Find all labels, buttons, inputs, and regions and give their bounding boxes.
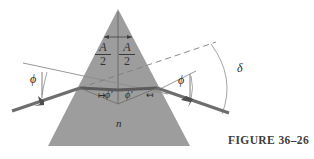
figure-prism-refraction: A 2 A 2 ϕ ϕ δ ϕ' ϕ' ↦ ↤ n FIGURE 36–26 <box>0 0 314 159</box>
exit-angle-label: ϕ <box>178 74 184 86</box>
phi-right-angle-arc <box>191 76 193 99</box>
internal-angle-label-right: ϕ' <box>125 90 132 100</box>
refractive-index-label: n <box>116 118 122 129</box>
delta-angle-arc <box>211 44 227 114</box>
phi-left-angle-arc <box>42 72 47 95</box>
internal-angle-tick-left: ↦ <box>98 91 106 100</box>
apex-half-denominator-right: 2 <box>119 55 135 67</box>
internal-angle-label-left: ϕ' <box>105 90 112 100</box>
right-face-normal-line <box>150 71 196 94</box>
apex-half-numerator-right: A <box>119 41 135 53</box>
figure-caption: FIGURE 36–26 <box>228 134 309 146</box>
apex-half-angle-right: A 2 <box>119 41 135 67</box>
apex-half-angle-left: A 2 <box>95 41 111 67</box>
apex-half-numerator-left: A <box>95 41 111 53</box>
internal-angle-tick-right: ↤ <box>146 91 154 100</box>
incident-angle-label: ϕ <box>30 73 36 85</box>
deviation-angle-label: δ <box>237 62 243 74</box>
apex-half-denominator-left: 2 <box>95 55 111 67</box>
